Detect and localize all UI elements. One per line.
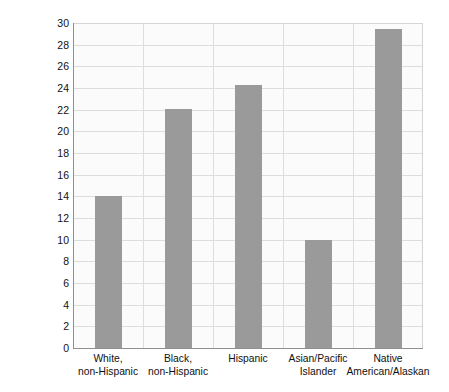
vertical-gridline: [143, 23, 144, 348]
bar-chart: PERCENTAGE REPORTING FAIR OR POOR HEALTH…: [0, 0, 449, 392]
y-axis-tick-label: 26: [45, 61, 69, 72]
x-axis-category-label-line-2: non-Hispanic: [123, 365, 233, 378]
x-axis-line: [73, 348, 423, 349]
y-axis-tick-label: 24: [45, 83, 69, 94]
x-axis-category-label: NativeAmerican/Alaskan: [333, 352, 443, 378]
y-axis-tick-label: 6: [45, 278, 69, 289]
bar: [375, 29, 402, 348]
y-axis-tick-label: 22: [45, 105, 69, 116]
bar: [305, 240, 332, 348]
y-axis-tick-label: 8: [45, 256, 69, 267]
y-axis-tick-label: 12: [45, 213, 69, 224]
horizontal-gridline: [73, 23, 423, 24]
y-axis-tick-label: 10: [45, 235, 69, 246]
horizontal-gridline: [73, 45, 423, 46]
bar: [95, 196, 122, 348]
vertical-gridline: [213, 23, 214, 348]
y-axis-tick-label: 20: [45, 126, 69, 137]
y-axis-tick-label: 14: [45, 191, 69, 202]
x-axis-category-labels: White,non-HispanicBlack,non-HispanicHisp…: [73, 352, 423, 392]
vertical-gridline: [283, 23, 284, 348]
x-axis-category-label-line-2: American/Alaskan: [333, 365, 443, 378]
y-axis-tick-label: 4: [45, 300, 69, 311]
horizontal-gridline: [73, 66, 423, 67]
y-axis-tick-label: 28: [45, 40, 69, 51]
plot-area: [73, 23, 423, 348]
y-axis-tick-label: 16: [45, 170, 69, 181]
y-axis-line: [73, 23, 74, 349]
x-axis-category-label-line-1: Native: [333, 352, 443, 365]
bar: [165, 109, 192, 348]
y-axis-tick-label: 18: [45, 148, 69, 159]
bar: [235, 85, 262, 348]
y-axis-tick-label: 30: [45, 18, 69, 29]
vertical-gridline: [353, 23, 354, 348]
y-axis-tick-label: 2: [45, 321, 69, 332]
y-axis-tick-labels: 024681012141618202224262830: [45, 0, 69, 392]
